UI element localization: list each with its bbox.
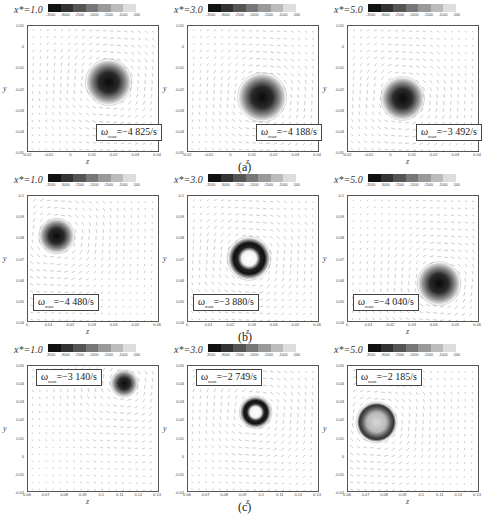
y-tick: 0.06 — [16, 277, 24, 282]
omega-value: =−4 188/s — [276, 126, 316, 137]
colorbar-tick: -1500 — [424, 13, 433, 17]
vortex-core — [239, 74, 286, 121]
omega-max-label: ωmax=−3 880/s — [193, 294, 259, 311]
colorbar-ticks: -3500-3000-2500-2000-1500-1000-500 — [46, 353, 140, 357]
x-tick: 0.08 — [220, 492, 228, 497]
x-tick: -0.01 — [204, 152, 213, 157]
colorbar-tick: -2500 — [75, 353, 84, 357]
y-tick: 0.03 — [16, 399, 24, 404]
omega-max-label: ωmax=−3 140/s — [36, 369, 102, 386]
x-tick: 0.05 — [291, 322, 299, 327]
x-tick: -0.01 — [44, 152, 53, 157]
colorbar-swatch — [233, 174, 246, 182]
x-tick: 0.11 — [276, 492, 284, 497]
x-tick: 0.06 — [473, 322, 481, 327]
vorticity-panel: x*=5.0-3500-3000-2500-2000-1500-1000-500… — [320, 340, 480, 505]
x-axis-ticks: 0.060.070.080.090.10.110.120.13 — [347, 492, 479, 498]
colorbar-tick: -2000 — [249, 183, 258, 187]
x-axis-label: z — [406, 497, 409, 506]
station-label: x*=5.0 — [334, 344, 363, 355]
colorbar-tick: -3000 — [380, 183, 389, 187]
x-tick: 0.04 — [473, 152, 481, 157]
station-label: x*=3.0 — [174, 174, 203, 185]
y-tick: 0.05 — [336, 298, 344, 303]
colorbar-swatch — [73, 4, 86, 12]
colorbar-swatch — [271, 4, 284, 12]
omega-value: =−3 140/s — [56, 371, 96, 382]
omega-symbol: ω — [361, 371, 368, 382]
colorbar-swatch — [246, 174, 259, 182]
x-tick: 0.01 — [365, 322, 373, 327]
y-tick: -0.02 — [335, 86, 344, 91]
omega-max-label: ωmax=−4 188/s — [256, 124, 322, 141]
colorbar — [48, 174, 136, 182]
colorbar-swatch — [221, 344, 234, 352]
colorbar-tick: -3500 — [206, 13, 215, 17]
colorbar-tick: -3000 — [220, 13, 229, 17]
colorbar-swatch — [381, 174, 394, 182]
y-tick: -0.01 — [175, 471, 184, 476]
colorbar-tick: -1000 — [118, 183, 127, 187]
colorbar-tick: -2000 — [409, 353, 418, 357]
colorbar-swatch — [381, 4, 394, 12]
colorbar-tick: -2000 — [89, 183, 98, 187]
colorbar-tick: -1500 — [424, 353, 433, 357]
colorbar-swatch — [406, 174, 419, 182]
colorbar-tick: -3500 — [46, 13, 55, 17]
colorbar-ticks: -3500-3000-2500-2000-1500-1000-500 — [366, 13, 460, 17]
colorbar-tick: -2500 — [75, 13, 84, 17]
x-tick: 0.03 — [248, 322, 256, 327]
colorbar — [48, 344, 136, 352]
x-tick: 0.02 — [270, 152, 278, 157]
x-tick: 0.03 — [88, 322, 96, 327]
y-tick: 0.04 — [16, 320, 24, 325]
y-tick: 0.06 — [176, 277, 184, 282]
colorbar-tick: -1000 — [118, 353, 127, 357]
colorbar-swatch — [123, 174, 136, 182]
omega-max-label: ωmax=−3 492/s — [416, 124, 482, 141]
colorbar-swatch — [406, 4, 419, 12]
x-tick: 0.01 — [205, 322, 213, 327]
colorbar-tick: -3000 — [380, 13, 389, 17]
x-tick: -0.01 — [364, 152, 373, 157]
y-tick: 0.02 — [336, 417, 344, 422]
colorbar-swatch — [233, 4, 246, 12]
colorbar-tick: -500 — [133, 183, 140, 187]
y-axis-label: y — [163, 254, 167, 263]
colorbar-swatch — [418, 174, 431, 182]
omega-symbol: ω — [41, 371, 48, 382]
y-tick: 0.01 — [336, 23, 344, 28]
x-axis-ticks: -0.02-0.0100.010.020.030.04 — [187, 152, 319, 158]
colorbar-ticks: -3500-3000-2500-2000-1500-1000-500 — [46, 183, 140, 187]
x-tick: 0 — [26, 322, 28, 327]
x-axis-ticks: 0.060.070.080.090.10.110.120.13 — [27, 492, 159, 498]
y-tick: 0.08 — [336, 235, 344, 240]
x-tick: 0.1 — [419, 492, 425, 497]
colorbar-swatch — [86, 174, 99, 182]
colorbar-swatch — [98, 344, 111, 352]
vorticity-panel: x*=3.0-3500-3000-2500-2000-1500-1000-500… — [160, 0, 320, 165]
colorbar — [208, 4, 296, 12]
vorticity-panel: x*=1.0-3500-3000-2500-2000-1500-1000-500… — [0, 0, 160, 165]
y-tick: -0.01 — [335, 65, 344, 70]
vortex-core — [87, 60, 131, 104]
row-caption: (c) — [238, 500, 251, 515]
colorbar-swatch — [431, 344, 444, 352]
colorbar-swatch — [271, 344, 284, 352]
omega-symbol: ω — [201, 371, 208, 382]
y-tick: 0.09 — [336, 214, 344, 219]
x-tick: 0.11 — [116, 492, 124, 497]
colorbar-tick: -1000 — [438, 13, 447, 17]
colorbar-tick: -500 — [453, 183, 460, 187]
colorbar-tick: -1000 — [278, 353, 287, 357]
omega-max-label: ωmax=−2 185/s — [356, 369, 422, 386]
x-axis-label: z — [86, 327, 89, 336]
x-tick: -0.02 — [182, 152, 191, 157]
omega-max-label: ωmax=−2 749/s — [196, 369, 262, 386]
x-tick: 0.12 — [135, 492, 143, 497]
y-axis-label: y — [3, 254, 7, 263]
colorbar-swatch — [368, 4, 381, 12]
x-axis-label: z — [406, 157, 409, 166]
colorbar-swatch — [246, 344, 259, 352]
colorbar-swatch — [48, 4, 61, 12]
